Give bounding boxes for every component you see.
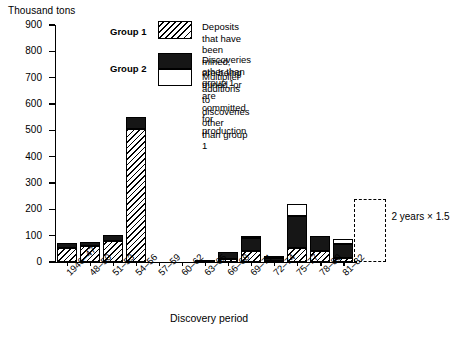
segment-group2-discoveries bbox=[287, 216, 307, 248]
y-tick-label: 100 bbox=[8, 231, 42, 241]
y-tick-label: 800 bbox=[8, 46, 42, 56]
x-axis-title: Discovery period bbox=[170, 312, 248, 324]
legend-hatched-swatch bbox=[158, 21, 192, 39]
legend-group1-label: Group 1 bbox=[110, 26, 146, 37]
y-tick-label: 0 bbox=[8, 257, 42, 267]
segment-group1 bbox=[126, 129, 146, 262]
y-tick-label: 900 bbox=[8, 20, 42, 30]
bar-54-56 bbox=[126, 117, 146, 262]
y-tick-label: 400 bbox=[8, 152, 42, 162]
y-tick-label: 300 bbox=[8, 178, 42, 188]
segment-group2-multiplier bbox=[241, 236, 261, 239]
projection-annotation-label: 2 years × 1.5 bbox=[391, 211, 449, 222]
y-tick-label: 600 bbox=[8, 99, 42, 109]
legend-black-swatch bbox=[158, 53, 192, 69]
segment-group2-discoveries bbox=[103, 235, 123, 241]
y-axis-title: Thousand tons bbox=[8, 5, 75, 16]
segment-group2-discoveries bbox=[57, 243, 77, 247]
legend-entry-text-group2-white: Multiplier additions to discoveries othe… bbox=[202, 71, 250, 152]
y-tick-label: 700 bbox=[8, 73, 42, 83]
y-tick-label: 200 bbox=[8, 204, 42, 214]
segment-group2-discoveries bbox=[241, 238, 261, 251]
legend-group2-label: Group 2 bbox=[110, 63, 146, 74]
segment-group2-multiplier bbox=[287, 204, 307, 216]
segment-group2-multiplier bbox=[333, 239, 353, 244]
projection-dashed-box bbox=[354, 199, 386, 262]
y-tick-label: 500 bbox=[8, 125, 42, 135]
segment-group2-discoveries bbox=[126, 117, 146, 129]
legend-white-swatch bbox=[158, 69, 192, 86]
segment-group2-discoveries bbox=[310, 236, 330, 251]
